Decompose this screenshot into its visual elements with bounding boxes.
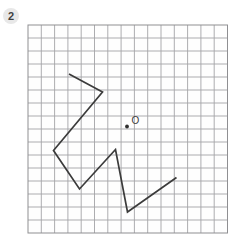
grid-canvas: O — [0, 0, 232, 241]
exercise-figure: 2 O — [0, 0, 232, 241]
center-point-dot — [125, 125, 129, 129]
center-point-label: O — [132, 115, 140, 126]
